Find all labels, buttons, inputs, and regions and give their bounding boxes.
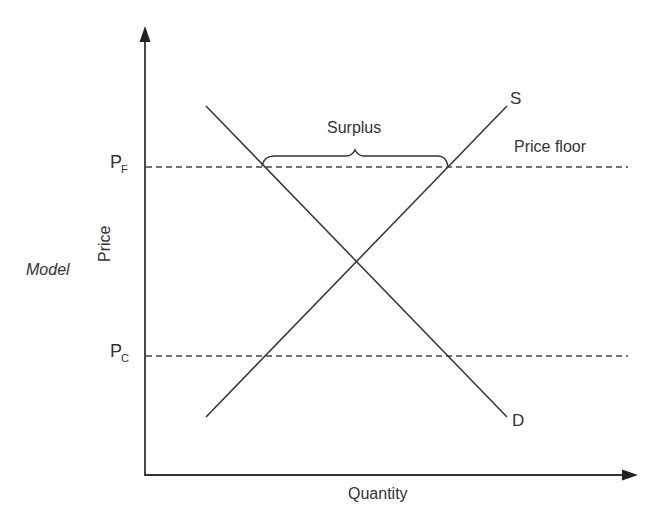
price-floor-diagram bbox=[0, 0, 655, 530]
demand-label: D bbox=[512, 411, 524, 431]
model-side-label: Model bbox=[26, 261, 70, 279]
price-floor-label: Price floor bbox=[514, 138, 586, 156]
y-axis-label: Price bbox=[96, 226, 114, 262]
x-axis-label: Quantity bbox=[348, 485, 408, 503]
supply-label: S bbox=[510, 89, 521, 109]
pc-label: PC bbox=[110, 341, 130, 362]
pf-label: PF bbox=[110, 152, 129, 173]
y-axis-arrow-icon bbox=[140, 26, 151, 42]
surplus-brace bbox=[262, 150, 448, 166]
surplus-label: Surplus bbox=[327, 119, 381, 137]
x-axis-arrow-icon bbox=[622, 470, 638, 481]
